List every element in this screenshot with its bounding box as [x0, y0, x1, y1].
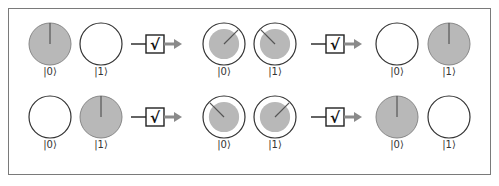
- state-label: |0⟩: [390, 66, 404, 78]
- probability-disc-empty: [428, 96, 470, 138]
- sqrt-symbol: √: [150, 36, 161, 54]
- state-label: |1⟩: [94, 139, 108, 151]
- state-label: |1⟩: [442, 139, 456, 151]
- probability-disc-empty: [29, 96, 71, 138]
- sqrt-not-gate-row0-1: √: [311, 35, 362, 54]
- sqrt-not-diagram: |0⟩|1⟩|0⟩|1⟩|0⟩|1⟩√√|0⟩|1⟩|0⟩|1⟩|0⟩|1⟩√√: [0, 0, 499, 186]
- state-label: |0⟩: [217, 66, 231, 78]
- qubit-input-row0-1: |1⟩: [80, 23, 122, 78]
- qubit-input-row1-0: |0⟩: [29, 96, 71, 151]
- state-label: |1⟩: [94, 66, 108, 78]
- output-arrow-head: [174, 112, 182, 122]
- state-label: |1⟩: [268, 139, 282, 151]
- output-arrow-head: [354, 39, 362, 49]
- state-label: |0⟩: [43, 66, 57, 78]
- sqrt-symbol: √: [330, 109, 341, 127]
- qubit-middle-row1-1: |1⟩: [254, 96, 296, 151]
- state-label: |1⟩: [442, 66, 456, 78]
- qubit-output-row1-0: |0⟩: [376, 96, 418, 151]
- probability-disc-empty: [376, 23, 418, 65]
- state-label: |0⟩: [217, 139, 231, 151]
- state-label: |0⟩: [390, 139, 404, 151]
- qubit-output-row0-1: |1⟩: [428, 23, 470, 78]
- state-label: |1⟩: [268, 66, 282, 78]
- qubit-input-row0-0: |0⟩: [29, 23, 71, 78]
- sqrt-symbol: √: [150, 109, 161, 127]
- sqrt-symbol: √: [330, 36, 341, 54]
- probability-disc-empty: [80, 23, 122, 65]
- output-arrow-head: [354, 112, 362, 122]
- qubit-input-row1-1: |1⟩: [80, 96, 122, 151]
- sqrt-not-gate-row0-0: √: [131, 35, 182, 54]
- sqrt-not-gate-row1-0: √: [131, 108, 182, 127]
- output-arrow-head: [174, 39, 182, 49]
- qubit-middle-row0-1: |1⟩: [254, 23, 296, 78]
- qubit-middle-row0-0: |0⟩: [203, 23, 245, 78]
- qubit-output-row0-0: |0⟩: [376, 23, 418, 78]
- sqrt-not-gate-row1-1: √: [311, 108, 362, 127]
- state-label: |0⟩: [43, 139, 57, 151]
- qubit-middle-row1-0: |0⟩: [203, 96, 245, 151]
- qubit-output-row1-1: |1⟩: [428, 96, 470, 151]
